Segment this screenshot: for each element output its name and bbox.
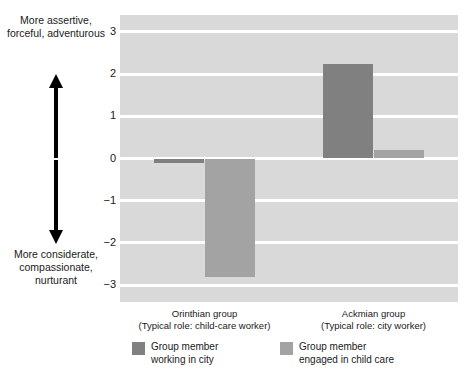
x-axis-group-name: Orinthian group xyxy=(120,308,289,320)
bar-ackmian-group-series-2 xyxy=(374,150,424,158)
down-arrow-shaft xyxy=(54,160,58,232)
up-arrow-shaft xyxy=(54,86,58,158)
legend-entry: Group member working in city xyxy=(132,341,218,366)
gridline-1 xyxy=(120,115,458,118)
down-arrow-head xyxy=(49,230,63,244)
legend-entry: Group member engaged in child care xyxy=(280,341,394,366)
x-axis-group-label: Orinthian group(Typical role: child-care… xyxy=(120,308,289,332)
legend-color-swatch xyxy=(132,342,145,355)
y-axis: 3210−1−2−3 xyxy=(96,15,116,302)
gridline-neg3 xyxy=(120,284,458,287)
x-axis-labels: Orinthian group(Typical role: child-care… xyxy=(120,308,458,338)
y-axis-tick-label: −3 xyxy=(96,279,116,290)
x-axis-group-label: Ackmian group(Typical role: city worker) xyxy=(289,308,458,332)
y-axis-tick-label: 2 xyxy=(96,68,116,79)
bar-ackmian-group-series-1 xyxy=(323,64,373,159)
y-axis-tick-label: 1 xyxy=(96,110,116,121)
chart-legend: Group member working in cityGroup member… xyxy=(120,341,466,371)
chart-plot-area xyxy=(120,15,458,302)
bar-orinthian-group-series-2 xyxy=(205,159,255,277)
x-axis-group-role: (Typical role: child-care worker) xyxy=(120,320,289,332)
y-axis-tick-label: −2 xyxy=(96,237,116,248)
x-axis-group-name: Ackmian group xyxy=(289,308,458,320)
gridline-3 xyxy=(120,30,458,33)
x-axis-group-role: (Typical role: city worker) xyxy=(289,320,458,332)
legend-label: Group member working in city xyxy=(151,341,218,366)
legend-color-swatch xyxy=(280,342,293,355)
legend-label: Group member engaged in child care xyxy=(299,341,394,366)
gridline-2 xyxy=(120,73,458,76)
bar-orinthian-group-series-1 xyxy=(154,159,204,163)
gridline-neg2 xyxy=(120,241,458,244)
y-axis-tick-label: −1 xyxy=(96,195,116,206)
down-arrow-icon xyxy=(49,160,63,244)
y-axis-tick-label: 3 xyxy=(96,26,116,37)
up-arrow-icon xyxy=(49,74,63,158)
gridline-neg1 xyxy=(120,199,458,202)
y-axis-tick-label: 0 xyxy=(96,153,116,164)
